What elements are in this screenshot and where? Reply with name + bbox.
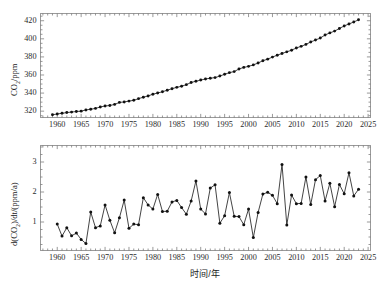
data-point	[147, 94, 150, 97]
data-point	[314, 39, 317, 42]
data-point	[199, 79, 202, 82]
data-point	[266, 191, 269, 194]
y-tick-label: 2	[2, 188, 37, 196]
x-tick-label: 1980	[145, 121, 161, 129]
x-tick-label: 2025	[360, 254, 376, 262]
data-point	[300, 202, 303, 205]
data-point	[142, 196, 145, 199]
data-point	[242, 223, 245, 226]
data-point	[118, 101, 121, 104]
data-point	[56, 113, 59, 116]
data-point	[51, 113, 54, 116]
data-point	[276, 54, 279, 57]
x-tick-label: 1975	[121, 254, 137, 262]
axis-ticks	[41, 14, 371, 118]
data-point	[99, 106, 102, 109]
x-tick-label: 1965	[73, 121, 89, 129]
data-point	[70, 234, 73, 237]
data-point	[104, 203, 107, 206]
data-point	[61, 112, 64, 115]
data-point	[80, 110, 83, 113]
data-point	[99, 224, 102, 227]
x-tick-label: 2000	[240, 254, 256, 262]
data-point	[108, 219, 111, 222]
data-point	[257, 211, 260, 214]
x-tick-label: 2005	[264, 121, 280, 129]
data-point	[190, 81, 193, 84]
data-point	[127, 227, 130, 230]
data-point	[285, 50, 288, 53]
data-point	[142, 96, 145, 99]
x-tick-label: 1995	[216, 254, 232, 262]
data-point	[252, 63, 255, 66]
data-point	[65, 111, 68, 114]
data-point	[261, 193, 264, 196]
data-point	[352, 21, 355, 24]
data-point	[295, 202, 298, 205]
x-tick-label: 1975	[121, 121, 137, 129]
data-point	[281, 52, 284, 55]
data-point	[295, 47, 298, 50]
data-point	[357, 18, 360, 21]
x-tick-label: 1995	[216, 121, 232, 129]
data-point	[304, 176, 307, 179]
data-point	[171, 200, 174, 203]
x-tick-label: 1970	[97, 254, 113, 262]
x-tick-label: 2005	[264, 254, 280, 262]
data-point	[132, 99, 135, 102]
data-point	[223, 73, 226, 76]
x-axis-title: 时间/年	[190, 267, 220, 280]
data-point	[338, 183, 341, 186]
data-point	[118, 216, 121, 219]
data-point	[137, 97, 140, 100]
x-tick-label: 1980	[145, 254, 161, 262]
x-tick-label: 1990	[193, 121, 209, 129]
data-point	[190, 200, 193, 203]
x-tick-label: 2015	[312, 254, 328, 262]
x-tick-label: 2010	[288, 254, 304, 262]
data-point	[171, 87, 174, 90]
data-point	[324, 34, 327, 37]
data-point	[247, 208, 250, 211]
data-point	[56, 223, 59, 226]
data-point	[175, 86, 178, 89]
data-point	[290, 49, 293, 52]
data-point	[328, 31, 331, 34]
x-tick-label: 1960	[49, 254, 65, 262]
data-point	[214, 183, 217, 186]
data-point	[233, 215, 236, 218]
data-point	[123, 199, 126, 202]
data-point	[223, 214, 226, 217]
figure-root: CO2/ppm 320340360380400420 1960196519701…	[0, 0, 379, 282]
x-tick-label: 1990	[193, 254, 209, 262]
data-point	[123, 101, 126, 104]
data-point	[84, 242, 87, 245]
data-point	[161, 210, 164, 213]
data-point	[180, 206, 183, 209]
data-point	[209, 187, 212, 190]
data-point	[180, 85, 183, 88]
data-point	[199, 208, 202, 211]
data-point	[166, 89, 169, 92]
y-tick-label: 320	[2, 107, 37, 115]
data-point	[228, 191, 231, 194]
data-point	[228, 71, 231, 74]
panel-co2-concentration: CO2/ppm 320340360380400420 1960196519701…	[0, 0, 379, 141]
x-tick-label: 2020	[336, 121, 352, 129]
data-point	[70, 111, 73, 114]
data-point	[333, 30, 336, 33]
data-point	[113, 231, 116, 234]
data-point	[333, 205, 336, 208]
axis-ticks	[41, 146, 371, 251]
data-point	[252, 236, 255, 239]
y-axis-title-bottom-pre: d(CO	[9, 227, 19, 246]
data-point	[261, 59, 264, 62]
data-point	[113, 103, 116, 106]
y-tick-label: 360	[2, 71, 37, 79]
data-point	[108, 104, 111, 107]
data-point	[285, 224, 288, 227]
data-point	[132, 223, 135, 226]
data-point	[233, 70, 236, 73]
data-point	[309, 203, 312, 206]
data-point	[271, 56, 274, 59]
